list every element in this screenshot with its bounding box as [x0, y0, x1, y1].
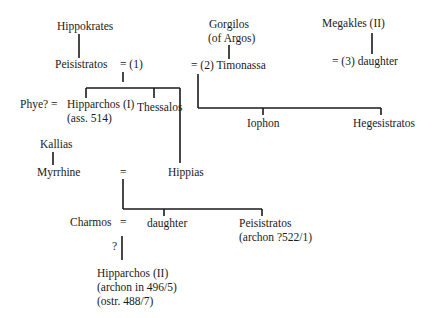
person-kallias: Kallias [40, 138, 73, 151]
person-phye: Phye? = [20, 98, 57, 111]
person-peisistratos-2-note: (archon ?522/1) [239, 231, 312, 244]
person-daughter: daughter [147, 217, 187, 230]
person-hipparchos-2-note-archon: (archon in 496/5) [97, 281, 177, 294]
marriage-sign-myrrhine-hippias: = [120, 166, 127, 179]
person-peisistratos-2: Peisistratos [239, 217, 291, 230]
connector-lines [0, 0, 434, 318]
person-hipparchos-2: Hipparchos (II) [97, 267, 168, 280]
person-gorgilos: Gorgilos [209, 18, 249, 31]
person-myrrhine: Myrrhine [37, 166, 80, 179]
marriage-sign-charmos-daughter: = [120, 216, 127, 229]
person-charmos: Charmos [70, 216, 112, 229]
family-tree-diagram: Hippokrates Peisistratos = (1) Gorgilos … [0, 0, 434, 318]
person-peisistratos: Peisistratos [55, 58, 107, 71]
person-iophon: Iophon [247, 117, 280, 130]
person-hippias: Hippias [168, 166, 204, 179]
person-thessalos: Thessalos [137, 101, 182, 114]
person-megakles: Megakles (II) [322, 17, 385, 30]
person-gorgilos-note: (of Argos) [208, 32, 255, 45]
marriage-label-2-timonassa: = (2) Timonassa [191, 59, 266, 72]
marriage-label-1: = (1) [120, 58, 143, 71]
person-hipparchos-2-note-ostracism: (ostr. 488/7) [97, 295, 153, 308]
person-hegesistratos: Hegesistratos [353, 117, 415, 130]
person-hipparchos-1-note: (ass. 514) [67, 112, 112, 125]
uncertain-mark: ? [112, 240, 117, 253]
person-hipparchos-1: Hipparchos (I) [67, 98, 134, 111]
person-hippokrates: Hippokrates [57, 20, 113, 33]
marriage-label-3-daughter: = (3) daughter [332, 55, 398, 68]
